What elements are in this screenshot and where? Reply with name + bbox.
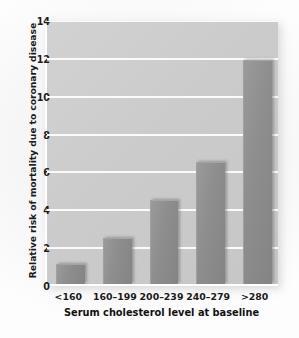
bar [56, 264, 85, 284]
bar [103, 238, 132, 284]
y-axis-tick-label: 0 [30, 281, 50, 292]
chart-figure: Relative risk of mortality due to corona… [0, 0, 299, 338]
x-axis-tick-label: >280 [241, 291, 268, 302]
x-axis-tick-label: 240–279 [186, 291, 230, 302]
x-axis-tick-label: 160–199 [93, 291, 137, 302]
plot-area [45, 21, 278, 286]
bar [196, 162, 225, 284]
x-axis-title: Serum cholesterol level at baseline [45, 307, 278, 318]
x-axis-tick-label: 200–239 [140, 291, 184, 302]
x-axis-tick-label: <160 [55, 291, 82, 302]
bar [150, 200, 179, 284]
bar [243, 60, 272, 284]
gridline [47, 21, 278, 22]
